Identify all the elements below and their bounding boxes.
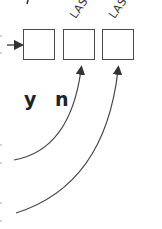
edge-dots [0,35,2,222]
box-1 [23,29,55,60]
box-2 [63,29,95,60]
diagram-canvas: LAS LAS y n [0,0,162,229]
letter-n: n [55,88,69,110]
curve-arrow-box-2 [14,70,81,160]
letter-y: y [24,88,36,110]
box-3 [102,29,134,60]
